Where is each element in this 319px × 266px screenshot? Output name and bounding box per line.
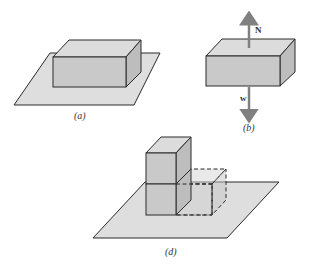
diagram-canvas: (a) N w (b): [0, 0, 319, 266]
stacked-cubes: [146, 137, 191, 215]
panel-a: (a): [14, 40, 160, 122]
block: [206, 39, 295, 86]
panel-d: (d): [93, 137, 279, 258]
upper-cube-front-face: [146, 153, 176, 184]
block-front-face: [53, 57, 126, 87]
block: [53, 40, 141, 87]
normal-force-label: N: [255, 25, 262, 35]
panel-label-a: (a): [74, 110, 86, 122]
panel-label-b: (b): [243, 122, 255, 134]
panel-label-d: (d): [165, 246, 177, 258]
weight-label: w: [240, 93, 247, 103]
block-front-face: [206, 56, 280, 86]
panel-b: N w (b): [206, 18, 295, 134]
lower-cube-front-face: [146, 184, 176, 215]
